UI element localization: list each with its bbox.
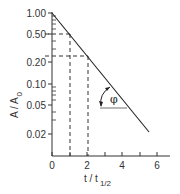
x-tick-label: 0 xyxy=(49,160,55,171)
y-tick-label: 0.20 xyxy=(27,57,47,68)
x-tick-label: 6 xyxy=(154,160,160,171)
y-tick-label: 0.10 xyxy=(27,79,47,90)
y-tick-label: 0.05 xyxy=(27,100,47,111)
x-tick-label: 4 xyxy=(119,160,125,171)
y-axis-title-sub: 0 xyxy=(15,91,24,96)
x-axis-title-sub: 1/2 xyxy=(100,179,112,188)
dashed-guides xyxy=(45,34,88,156)
decay-chart: 1.00 0.50 0.20 0.10 0.05 0.02 0 2 4 6 t … xyxy=(0,0,180,194)
y-major-ticks xyxy=(48,13,52,134)
x-ticks xyxy=(52,152,157,156)
y-axis-title: A / A0 xyxy=(9,91,24,118)
x-tick-labels: 0 2 4 6 xyxy=(49,160,160,171)
arrowhead-bottom-icon xyxy=(99,101,103,107)
x-axis-title: t / t1/2 xyxy=(84,173,112,188)
y-axis-title-main: A / A xyxy=(9,97,20,118)
y-tick-label: 0.50 xyxy=(27,29,47,40)
y-minor-ticks xyxy=(52,16,56,120)
x-axis-title-main: t / t xyxy=(84,173,98,184)
y-tick-labels: 1.00 0.50 0.20 0.10 0.05 0.02 xyxy=(27,8,47,140)
y-tick-label: 0.02 xyxy=(27,129,47,140)
angle-label: φ xyxy=(110,93,118,106)
decay-line xyxy=(52,13,149,132)
x-tick-label: 2 xyxy=(84,160,90,171)
y-tick-label: 1.00 xyxy=(27,8,47,19)
